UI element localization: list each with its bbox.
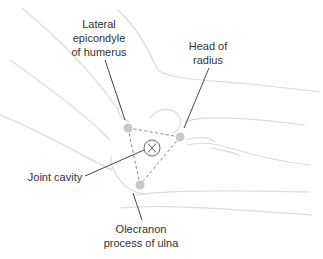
dot-olecranon [136, 181, 145, 190]
label-joint-cavity: Joint cavity [24, 170, 86, 184]
leader-lateral-epicondyle [105, 60, 125, 120]
leader-lines [85, 60, 209, 220]
dot-head-of-radius [176, 133, 185, 142]
landmark-triangle [128, 128, 180, 185]
joint-cavity-marker-icon [144, 140, 160, 156]
label-lateral-epicondyle: Lateral epicondyle of humerus [66, 17, 132, 59]
dot-lateral-epicondyle [124, 124, 133, 133]
label-olecranon: Olecranon process of ulna [96, 222, 186, 250]
elbow-diagram: Lateral epicondyle of humerus Head of ra… [0, 0, 323, 259]
label-head-of-radius: Head of radius [183, 39, 233, 67]
elbow-illustration [0, 0, 323, 259]
